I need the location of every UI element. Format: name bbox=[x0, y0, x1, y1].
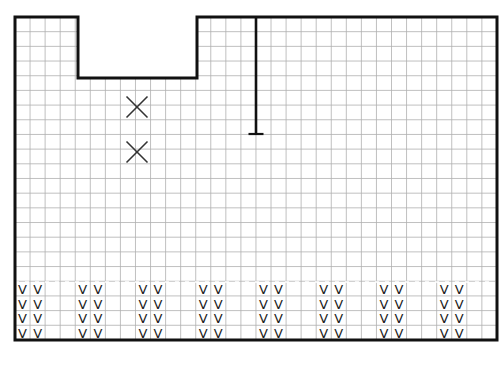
v-mark: V bbox=[139, 282, 148, 297]
floor-plan-diagram: VVVVVVVVVVVVVVVVVVVVVVVVVVVVVVVVVVVVVVVV… bbox=[0, 0, 500, 372]
v-mark: V bbox=[455, 282, 464, 297]
v-mark: V bbox=[93, 297, 102, 312]
v-mark: V bbox=[455, 311, 464, 326]
notch-cutout bbox=[78, 0, 197, 78]
v-mark: V bbox=[334, 311, 343, 326]
x-marks bbox=[127, 97, 148, 163]
v-mark: V bbox=[139, 297, 148, 312]
v-mark: V bbox=[33, 297, 42, 312]
v-mark: V bbox=[395, 282, 404, 297]
x-mark bbox=[127, 97, 148, 118]
v-mark: V bbox=[455, 297, 464, 312]
v-mark: V bbox=[199, 311, 208, 326]
v-mark: V bbox=[334, 297, 343, 312]
v-mark: V bbox=[319, 311, 328, 326]
v-mark: V bbox=[18, 311, 27, 326]
v-mark: V bbox=[199, 282, 208, 297]
v-mark: V bbox=[380, 297, 389, 312]
v-mark: V bbox=[33, 282, 42, 297]
v-mark: V bbox=[18, 282, 27, 297]
v-mark: V bbox=[93, 282, 102, 297]
v-mark: V bbox=[380, 282, 389, 297]
v-mark: V bbox=[78, 311, 87, 326]
v-mark: V bbox=[274, 282, 283, 297]
v-mark: V bbox=[259, 297, 268, 312]
v-mark: V bbox=[395, 297, 404, 312]
v-mark: V bbox=[154, 311, 163, 326]
v-mark: V bbox=[440, 282, 449, 297]
v-mark: V bbox=[78, 282, 87, 297]
v-mark: V bbox=[334, 282, 343, 297]
v-mark: V bbox=[440, 311, 449, 326]
v-mark: V bbox=[259, 311, 268, 326]
v-mark: V bbox=[199, 297, 208, 312]
v-mark: V bbox=[154, 297, 163, 312]
v-mark: V bbox=[259, 282, 268, 297]
x-mark bbox=[127, 142, 148, 163]
v-mark: V bbox=[214, 311, 223, 326]
v-mark: V bbox=[319, 297, 328, 312]
v-mark: V bbox=[154, 282, 163, 297]
v-mark: V bbox=[33, 311, 42, 326]
v-mark: V bbox=[274, 311, 283, 326]
v-mark: V bbox=[440, 297, 449, 312]
v-mark: V bbox=[319, 282, 328, 297]
v-mark: V bbox=[78, 297, 87, 312]
v-mark: V bbox=[214, 282, 223, 297]
v-mark: V bbox=[214, 297, 223, 312]
v-mark: V bbox=[139, 311, 148, 326]
v-mark: V bbox=[18, 297, 27, 312]
v-mark: V bbox=[395, 311, 404, 326]
v-mark: V bbox=[380, 311, 389, 326]
v-mark: V bbox=[274, 297, 283, 312]
v-mark: V bbox=[93, 311, 102, 326]
